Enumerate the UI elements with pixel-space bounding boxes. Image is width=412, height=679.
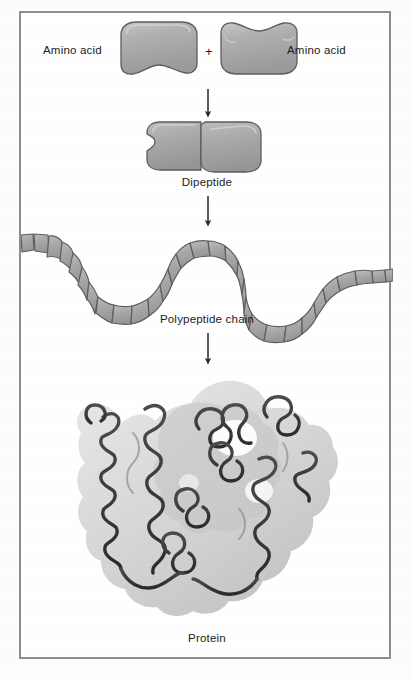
label-plus-sign: +: [205, 44, 213, 59]
label-amino-acid-left: Amino acid: [43, 44, 102, 56]
label-amino-acid-right: Amino acid: [287, 44, 346, 56]
polypeptide-chain: [21, 234, 393, 343]
dipeptide-block-left: [147, 122, 201, 170]
label-dipeptide: Dipeptide: [21, 176, 393, 188]
figure-frame: Amino acid + Amino acid Dipeptide Polype…: [19, 11, 391, 659]
diagram-canvas: [21, 13, 393, 661]
label-protein: Protein: [21, 632, 393, 644]
diagram-stage: Amino acid + Amino acid Dipeptide Polype…: [21, 13, 393, 661]
dipeptide-block-right: [201, 122, 261, 172]
protein-structure: [77, 381, 338, 616]
amino-acid-block-right: [221, 23, 297, 74]
amino-acid-block-left: [121, 22, 197, 74]
label-polypeptide-chain: Polypeptide chain: [21, 313, 393, 325]
